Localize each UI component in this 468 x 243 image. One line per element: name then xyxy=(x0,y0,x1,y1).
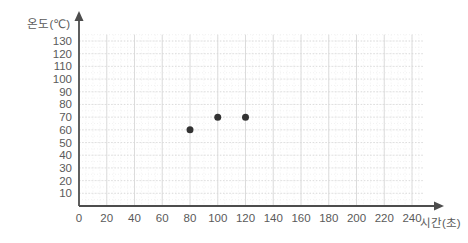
scatter-plot: 1020304050607080901001101201300204060801… xyxy=(0,0,468,243)
x-tick-label-20: 20 xyxy=(100,212,113,224)
x-tick-label-60: 60 xyxy=(156,212,169,224)
x-tick-label-200: 200 xyxy=(347,212,366,224)
x-tick-label-80: 80 xyxy=(184,212,197,224)
data-point-80-60 xyxy=(187,126,194,133)
y-axis-title: 온도(℃) xyxy=(27,18,70,30)
x-tick-label-120: 120 xyxy=(236,212,255,224)
y-tick-label-80: 80 xyxy=(59,98,72,110)
y-tick-label-120: 120 xyxy=(53,48,72,60)
x-tick-label-40: 40 xyxy=(128,212,141,224)
x-tick-label-220: 220 xyxy=(375,212,394,224)
y-tick-label-20: 20 xyxy=(59,175,72,187)
y-tick-label-100: 100 xyxy=(53,73,72,85)
y-tick-label-10: 10 xyxy=(59,187,72,199)
y-axis-tick-labels: 102030405060708090100110120130 xyxy=(53,35,72,199)
x-tick-label-0: 0 xyxy=(76,212,82,224)
data-point-120-70 xyxy=(242,114,249,121)
y-tick-label-50: 50 xyxy=(59,137,72,149)
x-tick-label-160: 160 xyxy=(291,212,310,224)
x-axis-title: 시간(초) xyxy=(420,217,461,229)
y-tick-label-110: 110 xyxy=(54,60,72,72)
x-axis-tick-labels: 020406080100120140160180200220240 xyxy=(76,212,422,224)
x-tick-label-180: 180 xyxy=(319,212,338,224)
x-tick-label-240: 240 xyxy=(402,212,421,224)
gridlines-horizontal xyxy=(79,41,423,193)
x-tick-label-100: 100 xyxy=(208,212,227,224)
y-tick-label-60: 60 xyxy=(59,124,72,136)
data-point-100-70 xyxy=(214,114,221,121)
y-axis-arrow-icon xyxy=(75,11,84,21)
y-tick-label-40: 40 xyxy=(59,149,72,161)
y-tick-label-30: 30 xyxy=(59,162,72,174)
x-axis-arrow-icon xyxy=(434,202,444,211)
y-tick-label-130: 130 xyxy=(53,35,72,47)
chart-container: 1020304050607080901001101201300204060801… xyxy=(0,0,468,243)
y-tick-label-70: 70 xyxy=(59,111,72,123)
y-tick-label-90: 90 xyxy=(59,86,72,98)
x-tick-label-140: 140 xyxy=(264,212,283,224)
